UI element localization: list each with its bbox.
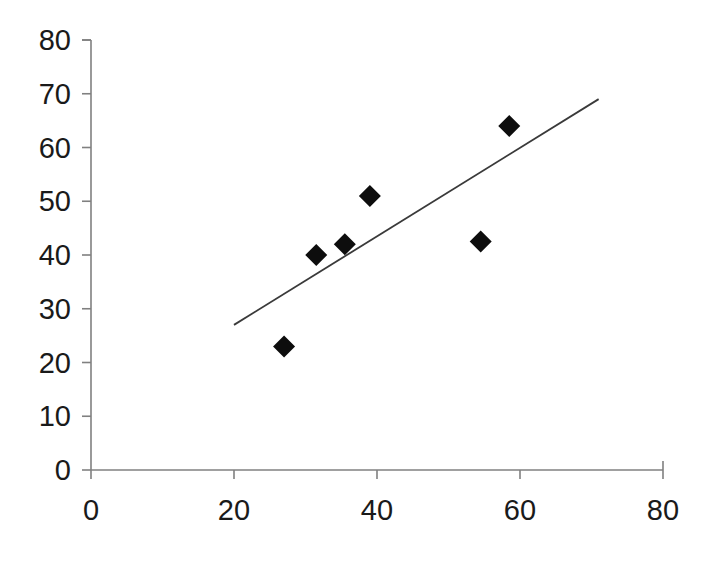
scatter-chart: 0 10 20 30 40 50 60 70 80 0 20 40 60 80 [0,0,710,563]
y-tick-label-30: 30 [39,293,71,325]
y-tick-label-50: 50 [39,185,71,217]
y-tick-label-10: 10 [39,400,71,432]
x-tick-label-40: 40 [361,494,393,526]
y-tick-label-80: 80 [39,24,71,56]
x-tick-label-20: 20 [218,494,250,526]
y-tick-label-0: 0 [55,454,71,486]
y-tick-label-60: 60 [39,132,71,164]
chart-canvas: 0 10 20 30 40 50 60 70 80 0 20 40 60 80 [0,0,710,563]
y-tick-label-40: 40 [39,239,71,271]
x-tick-label-60: 60 [504,494,536,526]
y-tick-label-70: 70 [39,78,71,110]
x-tick-label-0: 0 [83,494,99,526]
chart-background [0,0,710,563]
y-axis-tick-labels: 0 10 20 30 40 50 60 70 80 [39,24,71,486]
y-tick-label-20: 20 [39,347,71,379]
x-tick-label-80: 80 [647,494,679,526]
